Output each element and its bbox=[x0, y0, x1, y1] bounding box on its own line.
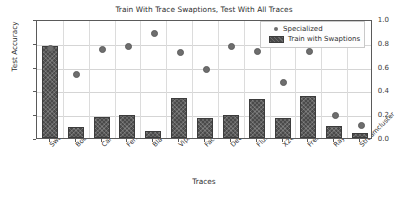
vertical-gridline bbox=[244, 21, 245, 138]
scatter-point bbox=[73, 71, 80, 78]
y-tick-mark bbox=[33, 139, 36, 140]
bar bbox=[42, 46, 58, 138]
bar bbox=[326, 126, 342, 138]
scatter-point bbox=[151, 30, 158, 37]
bar bbox=[352, 133, 368, 138]
vertical-gridline bbox=[89, 21, 90, 138]
bar bbox=[275, 118, 291, 138]
scatter-point bbox=[125, 43, 132, 50]
vertical-gridline bbox=[166, 21, 167, 138]
bar bbox=[249, 99, 265, 138]
scatter-point bbox=[358, 122, 365, 129]
scatter-point bbox=[306, 48, 313, 55]
bar bbox=[145, 131, 161, 138]
scatter-point bbox=[332, 112, 339, 119]
scatter-point bbox=[99, 46, 106, 53]
scatter-point bbox=[254, 48, 261, 55]
vertical-gridline bbox=[140, 21, 141, 138]
scatter-point bbox=[177, 49, 184, 56]
vertical-gridline bbox=[218, 21, 219, 138]
legend-item-specialized: Specialized bbox=[265, 24, 360, 34]
circle-marker-icon bbox=[274, 27, 278, 31]
x-axis-label: Traces bbox=[36, 177, 372, 186]
legend-label: Specialized bbox=[283, 25, 323, 33]
bar bbox=[119, 115, 135, 138]
bar bbox=[223, 115, 239, 138]
chart-title: Train With Trace Swaptions, Test With Al… bbox=[36, 5, 372, 15]
y-axis-label: Test Accuracy bbox=[10, 7, 19, 87]
bar bbox=[300, 96, 316, 138]
scatter-point bbox=[280, 79, 287, 86]
vertical-gridline bbox=[192, 21, 193, 138]
bar-swatch-icon bbox=[269, 36, 284, 43]
bar bbox=[197, 118, 213, 138]
scatter-point bbox=[228, 43, 235, 50]
legend-label: Train with Swaptions bbox=[288, 35, 360, 43]
legend-item-train-with-swaptions: Train with Swaptions bbox=[265, 34, 360, 44]
scatter-point bbox=[203, 66, 210, 73]
bar bbox=[94, 117, 110, 138]
vertical-gridline bbox=[115, 21, 116, 138]
vertical-gridline bbox=[63, 21, 64, 138]
legend: Specialized Train with Swaptions bbox=[260, 21, 365, 48]
bar bbox=[171, 98, 187, 138]
bar bbox=[68, 127, 84, 138]
